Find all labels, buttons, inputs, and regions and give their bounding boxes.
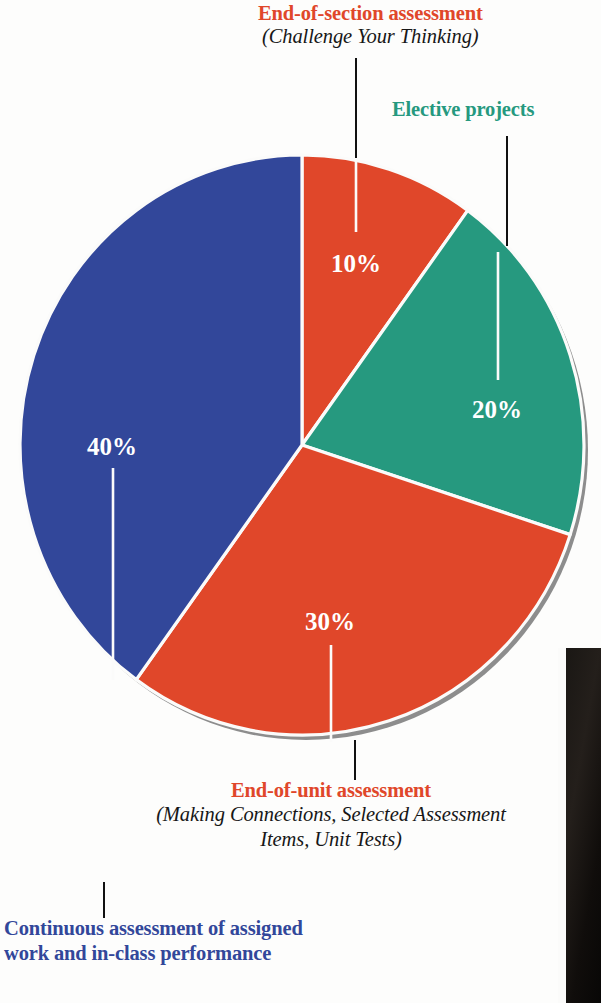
page-edge-shadow	[566, 648, 601, 1003]
leader-line-continuous	[103, 882, 105, 918]
callout-end-of-section-heading: End-of-section assessment	[258, 2, 483, 25]
pie-slice-label-end-of-section: 10%	[331, 250, 381, 277]
callout-end-of-unit-heading: End-of-unit assessment	[135, 779, 527, 802]
pie-slice-label-end-of-unit: 30%	[305, 608, 355, 635]
callout-continuous-assessment-heading: Continuous assessment of assigned work a…	[4, 916, 304, 966]
callout-elective-projects-heading: Elective projects	[392, 98, 534, 121]
callout-end-of-section-subtitle: (Challenge Your Thinking)	[258, 25, 483, 48]
callout-end-of-unit-subtitle: (Making Connections, Selected Assessment…	[135, 802, 527, 851]
callout-end-of-unit: End-of-unit assessment (Making Connectio…	[135, 779, 527, 852]
callout-continuous-assessment: Continuous assessment of assigned work a…	[4, 916, 304, 966]
pie-chart: 10%20%30%40%	[0, 0, 601, 1003]
chart-page: 10%20%30%40% End-of-section assessment (…	[0, 0, 601, 1003]
callout-end-of-section: End-of-section assessment (Challenge You…	[258, 2, 483, 49]
leader-line-end-of-section	[355, 58, 357, 158]
leader-line-end-of-unit	[354, 740, 356, 780]
leader-line-elective-projects	[506, 136, 508, 246]
page-edge-gap	[558, 648, 566, 1003]
callout-elective-projects: Elective projects	[392, 98, 534, 121]
pie-slice-label-elective-projects: 20%	[472, 396, 522, 423]
pie-slice-label-continuous-assessment: 40%	[87, 433, 137, 460]
